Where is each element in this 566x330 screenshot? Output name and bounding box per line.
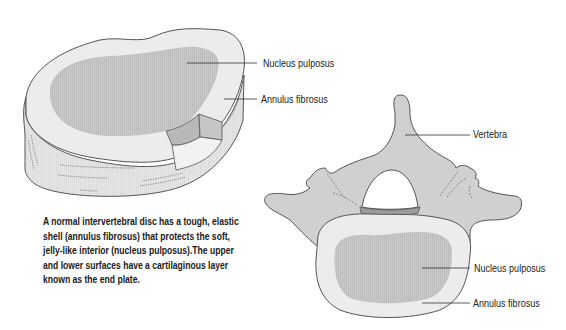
- caption-line: A normal intervertebral disc has a tough…: [43, 214, 256, 229]
- caption-line: known as the end plate.: [43, 272, 256, 287]
- caption-line: shell (annulus fibrosus) that protects t…: [43, 229, 256, 244]
- label-vertebra: Vertebra: [473, 128, 507, 140]
- label-vert-annulus-fibrosus: Annulus fibrosus: [473, 297, 540, 309]
- disc-3d: [24, 29, 257, 197]
- caption-line: and lower surfaces have a cartilaginous …: [43, 258, 256, 273]
- label-vert-nucleus-pulposus: Nucleus pulposus: [474, 262, 545, 274]
- label-disc-nucleus-pulposus: Nucleus pulposus: [263, 57, 334, 69]
- label-disc-annulus-fibrosus: Annulus fibrosus: [261, 93, 328, 105]
- figure-caption: A normal intervertebral disc has a tough…: [43, 214, 256, 287]
- caption-line: jelly-like interior (nucleus pulposus).T…: [43, 243, 256, 258]
